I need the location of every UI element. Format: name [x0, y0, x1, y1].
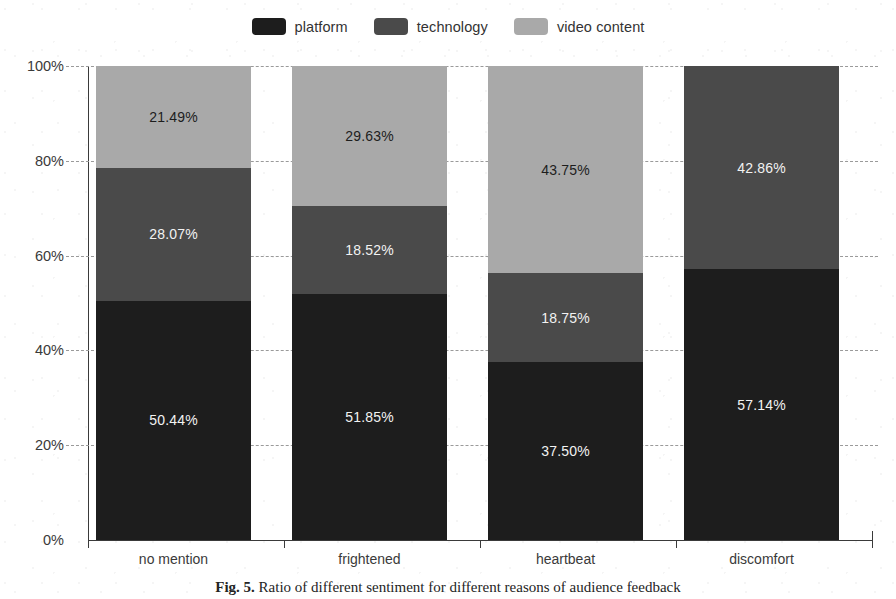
bar-segment-value-label: 21.49%: [149, 109, 198, 125]
legend-item-platform: platform: [252, 18, 348, 35]
y-tick-label-0: 0%: [43, 532, 64, 548]
y-tick-label-20: 20%: [35, 437, 64, 453]
x-tick-label-discomfort: discomfort: [729, 551, 794, 567]
legend-swatch-platform: [252, 18, 286, 35]
figure-caption-text: Ratio of different sentiment for differe…: [259, 579, 681, 595]
y-axis-tick-labels: 0%20%40%60%80%100%: [0, 0, 64, 599]
stacked-bar-no-mention[interactable]: 21.49%28.07%50.44%: [96, 66, 251, 540]
figure-stacked-bar-chart: platformtechnologyvideo content 0%20%40%…: [0, 0, 896, 599]
bar-segment-discomfort-platform[interactable]: 57.14%: [684, 269, 839, 540]
legend-label-technology: technology: [417, 19, 488, 35]
bar-segment-value-label: 29.63%: [345, 128, 394, 144]
bar-group-discomfort[interactable]: 42.86%57.14%: [684, 66, 839, 540]
bar-group-heartbeat[interactable]: 43.75%18.75%37.50%: [488, 66, 643, 540]
x-tick-label-no-mention: no mention: [139, 551, 208, 567]
y-tick-label-40: 40%: [35, 342, 64, 358]
bar-segment-heartbeat-platform[interactable]: 37.50%: [488, 362, 643, 540]
bar-segment-frightened-video-content[interactable]: 29.63%: [292, 66, 447, 206]
x-tick-mark-2: [480, 540, 481, 548]
chart-legend: platformtechnologyvideo content: [0, 18, 896, 35]
legend-label-platform: platform: [295, 19, 348, 35]
stacked-bar-discomfort[interactable]: 42.86%57.14%: [684, 66, 839, 540]
bar-segment-no-mention-platform[interactable]: 50.44%: [96, 301, 251, 540]
y-axis-origin-cap: [88, 531, 89, 540]
bar-segment-frightened-technology[interactable]: 18.52%: [292, 206, 447, 294]
bar-segment-value-label: 51.85%: [345, 409, 394, 425]
bar-segment-no-mention-video-content[interactable]: 21.49%: [96, 66, 251, 168]
figure-caption-label: Fig. 5.: [215, 579, 255, 595]
stacked-bar-frightened[interactable]: 29.63%18.52%51.85%: [292, 66, 447, 540]
bar-segment-heartbeat-technology[interactable]: 18.75%: [488, 273, 643, 362]
x-tick-mark-4: [872, 540, 873, 548]
bar-segment-heartbeat-video-content[interactable]: 43.75%: [488, 66, 643, 273]
x-tick-mark-1: [284, 540, 285, 548]
bar-segment-value-label: 28.07%: [149, 226, 198, 242]
y-tick-label-80: 80%: [35, 153, 64, 169]
legend-label-video-content: video content: [557, 19, 645, 35]
x-tick-mark-3: [676, 540, 677, 548]
bar-segment-value-label: 37.50%: [541, 443, 590, 459]
y-tick-label-100: 100%: [27, 58, 64, 74]
x-tick-label-frightened: frightened: [338, 551, 400, 567]
bar-segment-value-label: 50.44%: [149, 412, 198, 428]
legend-item-video-content: video content: [514, 18, 645, 35]
bar-segment-value-label: 18.75%: [541, 310, 590, 326]
legend-swatch-video-content: [514, 18, 548, 35]
bar-segment-value-label: 18.52%: [345, 242, 394, 258]
bar-segment-no-mention-technology[interactable]: 28.07%: [96, 168, 251, 301]
x-tick-mark-0: [88, 540, 89, 548]
bar-segment-value-label: 42.86%: [737, 160, 786, 176]
x-tick-label-heartbeat: heartbeat: [536, 551, 595, 567]
legend-swatch-technology: [374, 18, 408, 35]
bar-group-frightened[interactable]: 29.63%18.52%51.85%: [292, 66, 447, 540]
figure-caption: Fig. 5. Ratio of different sentiment for…: [0, 579, 896, 596]
x-axis-end-cap: [872, 531, 873, 540]
bar-segment-value-label: 57.14%: [737, 397, 786, 413]
plot-area: 21.49%28.07%50.44%29.63%18.52%51.85%43.7…: [88, 66, 872, 540]
bar-segment-discomfort-technology[interactable]: 42.86%: [684, 66, 839, 269]
legend-item-technology: technology: [374, 18, 488, 35]
bar-group-no-mention[interactable]: 21.49%28.07%50.44%: [96, 66, 251, 540]
y-tick-label-60: 60%: [35, 248, 64, 264]
stacked-bar-heartbeat[interactable]: 43.75%18.75%37.50%: [488, 66, 643, 540]
bar-segment-value-label: 43.75%: [541, 162, 590, 178]
bar-segment-frightened-platform[interactable]: 51.85%: [292, 294, 447, 540]
